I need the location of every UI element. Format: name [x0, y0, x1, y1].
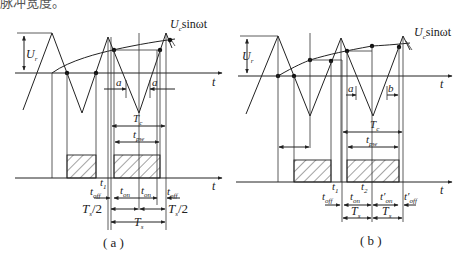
- axis-label-t-top-b: t: [440, 77, 444, 91]
- panel-b: t Ur Ucsinωt a b Tc: [236, 25, 452, 222]
- ton-right-label-b: t′on: [380, 190, 393, 205]
- a-label-b: a: [348, 82, 354, 94]
- sine-label-b: Ucsinωt: [414, 25, 452, 41]
- intersection-dot: [168, 38, 172, 42]
- tc-label-a: Tc: [133, 112, 143, 127]
- toff-right-label-b: t′off: [404, 190, 418, 205]
- pulse-block: [347, 160, 399, 182]
- ton-right-label-a: ton: [141, 184, 152, 199]
- caption-a: ( a ): [103, 235, 124, 251]
- pulse-block: [294, 160, 331, 182]
- half-ts-right-label-a: Ts/2: [168, 201, 188, 218]
- ton-left-label-b: ton: [350, 190, 361, 205]
- axis-label-t-bottom-b: t: [440, 183, 444, 197]
- ts-label-a: Ts: [134, 215, 144, 231]
- amplitude-label-b: Ur: [242, 49, 254, 65]
- caption-b: ( b ): [360, 233, 382, 249]
- half-ts-left-label-a: Ts/2: [82, 201, 102, 218]
- amplitude-label-a: Ur: [26, 47, 38, 63]
- sine-label-a: Ucsinωt: [170, 17, 208, 33]
- a-right-label-a: a: [152, 76, 158, 88]
- pwm-diagram: t Ur Ucsinωt a a: [0, 0, 467, 261]
- a-left-label-a: a: [116, 76, 122, 88]
- pulse-block: [114, 155, 160, 178]
- panel-a: t Ur Ucsinωt a a: [15, 17, 222, 231]
- axis-label-t-top-a: t: [212, 75, 216, 89]
- axis-label-t-bottom-a: t: [212, 179, 216, 193]
- toff-left-label-b: toff: [322, 190, 334, 205]
- b-label-b: b: [388, 82, 394, 94]
- sine-reference-a: [52, 39, 175, 73]
- tc-label-b: Tc: [370, 118, 380, 133]
- pulse-block: [67, 155, 96, 178]
- ton-left-label-a: ton: [120, 184, 131, 199]
